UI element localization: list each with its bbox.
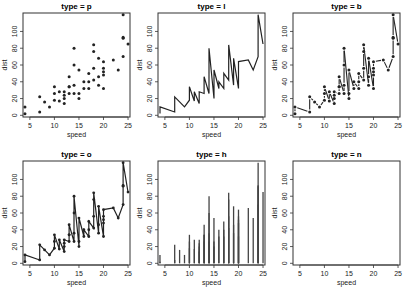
data-point [102, 208, 105, 211]
x-axis-label: speed [202, 131, 221, 139]
data-point [333, 90, 336, 93]
y-axis-label: dist [136, 208, 143, 219]
data-point [77, 69, 80, 72]
data-point [58, 238, 61, 241]
x-tick-label: 15 [210, 270, 218, 277]
data-point [333, 97, 336, 100]
data-point [43, 100, 46, 103]
y-tick-label: 100 [146, 174, 153, 186]
x-axis-label: speed [202, 279, 221, 287]
data-point [73, 47, 76, 50]
data-point [87, 80, 90, 83]
x-tick-label: 5 [28, 270, 32, 277]
data-point [102, 87, 105, 90]
panel-p: type = p510152025020406080100speeddist [1, 2, 132, 139]
y-tick-label: 40 [146, 226, 153, 234]
panel-b: type = b510152025020406080100speeddist [271, 2, 402, 139]
data-point [338, 75, 341, 78]
x-tick-label: 10 [321, 270, 329, 277]
x-tick-label: 25 [394, 270, 402, 277]
data-point [87, 228, 90, 231]
data-point [323, 85, 326, 88]
plot-frame [23, 13, 130, 117]
y-tick-label: 0 [281, 113, 288, 117]
data-point [117, 69, 120, 72]
data-point [367, 57, 370, 60]
panel-title: type = b [331, 2, 362, 11]
data-point [122, 13, 125, 16]
y-tick-label: 20 [281, 243, 288, 251]
plot-frame [293, 13, 400, 117]
x-tick-label: 25 [124, 122, 132, 129]
data-point [58, 100, 61, 103]
data-point [333, 94, 336, 97]
data-point [87, 72, 90, 75]
x-tick-label: 5 [298, 122, 302, 129]
y-tick-label: 0 [11, 261, 18, 265]
data-point [38, 95, 41, 98]
data-point [357, 87, 360, 90]
x-tick-label: 25 [259, 270, 267, 277]
data-point [122, 184, 125, 187]
data-point [82, 87, 85, 90]
x-tick-label: 10 [51, 270, 59, 277]
data-point [122, 36, 125, 39]
data-point [63, 102, 66, 105]
data-point [63, 238, 66, 241]
y-tick-label: 60 [146, 209, 153, 217]
data-point [357, 80, 360, 83]
panel-n: type = n510152025020406080100speeddist [271, 150, 402, 287]
data-point [63, 250, 66, 253]
data-point [362, 43, 365, 46]
data-point [102, 60, 105, 63]
x-tick-label: 5 [298, 270, 302, 277]
y-tick-label: 40 [11, 226, 18, 234]
data-point [38, 110, 41, 113]
data-point [328, 100, 331, 103]
x-tick-label: 20 [235, 270, 243, 277]
data-point [372, 87, 375, 90]
data-point [58, 248, 61, 251]
y-tick-label: 100 [11, 26, 18, 38]
data-point [343, 64, 346, 67]
data-point [68, 75, 71, 78]
y-tick-label: 0 [146, 261, 153, 265]
data-point [102, 218, 105, 221]
data-point [78, 240, 81, 243]
x-tick-label: 15 [75, 270, 83, 277]
x-tick-label: 25 [124, 270, 132, 277]
data-point [382, 58, 385, 61]
y-tick-label: 60 [11, 209, 18, 217]
data-point [102, 70, 105, 73]
y-tick-label: 20 [281, 95, 288, 103]
data-point [92, 67, 95, 70]
panel-title: type = o [61, 150, 92, 159]
data-point [308, 95, 311, 98]
x-axis-label: speed [337, 279, 356, 287]
data-point [63, 245, 66, 248]
x-tick-label: 20 [370, 270, 378, 277]
data-point [82, 235, 85, 238]
y-tick-label: 80 [11, 192, 18, 200]
y-axis-label: dist [136, 60, 143, 71]
x-tick-label: 15 [75, 122, 83, 129]
data-point [53, 247, 56, 250]
x-tick-label: 10 [51, 122, 59, 129]
data-point [78, 245, 81, 248]
y-tick-label: 100 [281, 26, 288, 38]
x-tick-label: 25 [259, 122, 267, 129]
data-point [63, 90, 66, 93]
data-point [73, 64, 76, 67]
data-point [347, 97, 350, 100]
data-point [372, 60, 375, 63]
data-point [63, 97, 66, 100]
data-point [122, 203, 125, 206]
data-point [362, 50, 365, 53]
data-point [73, 92, 76, 95]
y-tick-label: 40 [281, 226, 288, 234]
data-point [23, 105, 26, 108]
data-point [77, 92, 80, 95]
data-point [73, 212, 76, 215]
series-line [160, 15, 263, 114]
y-tick-label: 40 [146, 78, 153, 86]
